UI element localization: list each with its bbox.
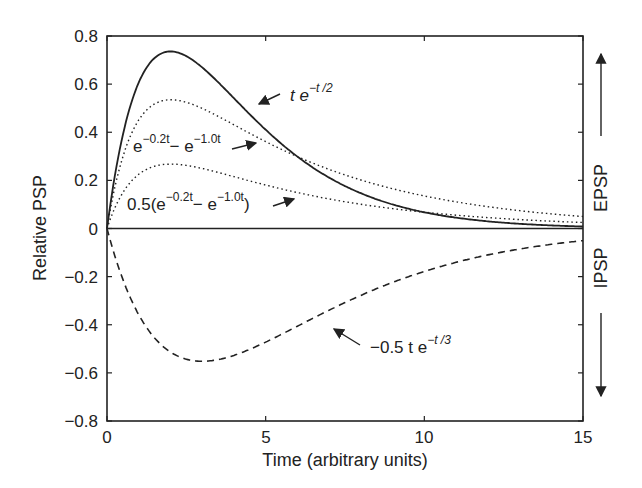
y-tick-label: 0.2 — [74, 171, 98, 190]
y-tick-label: 0.4 — [74, 123, 98, 142]
arrow-icon — [232, 143, 256, 149]
y-tick-label: −0.8 — [64, 412, 98, 431]
ann-text3: ) — [244, 195, 250, 214]
y-tick-label: −0.4 — [64, 316, 98, 335]
y-tick-label: −0.2 — [64, 268, 98, 287]
arrow-icon — [273, 199, 294, 206]
curve-dashed — [107, 229, 583, 362]
curves — [107, 52, 583, 362]
ann-text: −0.5 t e — [370, 338, 427, 357]
ann-text: e — [133, 137, 142, 156]
ann-sup: −0.2t — [166, 190, 194, 204]
arrow-icon — [259, 94, 280, 104]
ipsp-label: IPSP — [591, 247, 611, 288]
y-axis-label: Relative PSP — [30, 175, 50, 281]
x-tick-label: 5 — [261, 428, 270, 447]
ann-text2: − e — [170, 137, 194, 156]
svg-text:t e−t /2: t e−t /2 — [290, 81, 333, 105]
annotation-solid: t e−t /2 — [290, 81, 333, 105]
y-tick-label: −0.6 — [64, 364, 98, 383]
x-tick-label: 0 — [102, 428, 111, 447]
epsp-label: EPSP — [591, 164, 611, 212]
svg-text:0.5(e−0.2t− e−1.0t): 0.5(e−0.2t− e−1.0t) — [127, 190, 250, 214]
curve-dotted — [107, 100, 583, 229]
svg-text:−0.5 t e−t /3: −0.5 t e−t /3 — [370, 333, 451, 357]
ann-sup: −t /3 — [427, 333, 451, 347]
x-tick-label: 15 — [574, 428, 593, 447]
ann-sup: −t /2 — [309, 81, 333, 95]
ann-sup2: −1.0t — [194, 132, 222, 146]
y-tick-label: 0.8 — [74, 27, 98, 46]
annotation-dotted-upper: e−0.2t− e−1.0t — [133, 132, 221, 156]
ann-sup: −0.2t — [142, 132, 170, 146]
y-tick-label: 0 — [89, 220, 98, 239]
ann-text: t e — [290, 86, 309, 105]
arrow-icon — [334, 329, 360, 345]
y-tick-labels: 0.8 0.6 0.4 0.2 0 −0.2 −0.4 −0.6 −0.8 — [64, 27, 98, 431]
svg-text:e−0.2t− e−1.0t: e−0.2t− e−1.0t — [133, 132, 221, 156]
ann-sup2: −1.0t — [217, 190, 245, 204]
annotation-dotted-lower: 0.5(e−0.2t− e−1.0t) — [127, 190, 250, 214]
ann-text2: − e — [193, 195, 217, 214]
x-tick-label: 10 — [415, 428, 434, 447]
ann-text: 0.5(e — [127, 195, 166, 214]
psp-chart: 0.8 0.6 0.4 0.2 0 −0.2 −0.4 −0.6 −0.8 0 … — [0, 0, 642, 488]
annotation-dashed: −0.5 t e−t /3 — [370, 333, 451, 357]
x-axis-label: Time (arbitrary units) — [262, 450, 427, 470]
x-tick-labels: 0 5 10 15 — [102, 428, 592, 447]
y-tick-label: 0.6 — [74, 75, 98, 94]
